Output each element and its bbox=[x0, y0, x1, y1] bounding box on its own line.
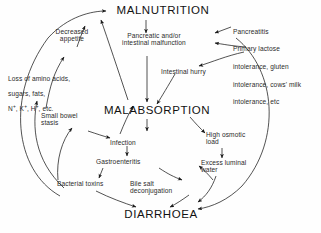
arrow-etiology-to-pancreatic bbox=[215, 27, 231, 33]
node-gastroenteritis: Gastroenteritis bbox=[96, 158, 164, 165]
arrow-lower-to-stasis bbox=[58, 128, 72, 180]
arrow-gastroenteritis-to-toxins bbox=[99, 168, 103, 178]
ion-sep-2: , H bbox=[27, 105, 36, 112]
etiology-line-3: intolerance, gluten bbox=[233, 63, 321, 72]
etiology-line-5: intolerance, etc bbox=[233, 98, 321, 107]
arrow-bile-to-diarrhoea bbox=[170, 195, 189, 207]
nutrient-loss-line-1: Loss of amino acids, bbox=[8, 75, 100, 82]
etiology-line-4: intolerance, cows' milk bbox=[233, 81, 321, 90]
node-excess-luminal-water: Excess luminal water bbox=[201, 159, 267, 174]
nutrient-loss-line-2: sugars, fats, bbox=[8, 90, 100, 97]
node-malabsorption: MALABSORPTION bbox=[92, 104, 222, 117]
node-small-bowel-stasis: Small bowel stasis bbox=[41, 112, 97, 127]
node-malnutrition: MALNUTRITION bbox=[108, 4, 218, 17]
arrow-malabsorption-to-osmotic bbox=[190, 117, 205, 133]
node-bile-salt-deconjugation: Bile salt deconjugation bbox=[130, 180, 190, 195]
node-diarrhoea: DIARRHOEA bbox=[110, 208, 212, 221]
arrow-gastroenteritis-to-bile-salt bbox=[159, 168, 182, 180]
arrow-stasis-to-infection bbox=[88, 131, 110, 138]
ion-sep-1: , K bbox=[16, 105, 24, 112]
node-pancreatic-malfunction: Pancreatic and/or intestinal malfunction bbox=[106, 32, 202, 47]
node-bacterial-toxins: Bacterial toxins bbox=[57, 180, 129, 187]
arrow-water-to-diarrhoea bbox=[198, 176, 216, 202]
arrow-hurry-to-malabsorption bbox=[157, 74, 175, 104]
etiology-line-2: Primary lactose bbox=[233, 45, 321, 54]
node-decreased-appetite: Decreased appetite bbox=[45, 28, 99, 43]
etiology-list: Pancreatitis Primary lactose intolerance… bbox=[233, 19, 321, 116]
diagram-canvas: MALNUTRITION MALABSORPTION DIARRHOEA Dec… bbox=[0, 0, 321, 233]
node-intestinal-hurry: Intestinal hurry bbox=[161, 68, 231, 75]
etiology-line-1: Pancreatitis bbox=[233, 28, 321, 37]
ion-suffix: , etc. bbox=[39, 105, 54, 112]
node-infection: Infection bbox=[110, 139, 156, 146]
node-high-osmotic-load: High osmotic load bbox=[206, 131, 262, 146]
